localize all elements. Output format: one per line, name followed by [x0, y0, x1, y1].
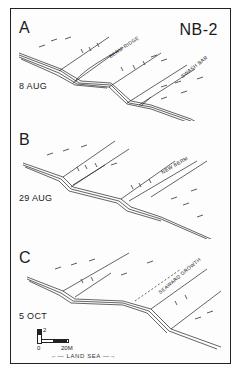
- beach-profile-sketch-b: [11, 121, 232, 239]
- panel-b: B 29 AUG NEW BERM: [11, 121, 232, 239]
- scale-origin-label: 0: [37, 345, 40, 351]
- scale-vertical-label: 2: [43, 327, 46, 333]
- land-sea-orientation: ←— LAND SEA —→: [51, 353, 116, 359]
- scale-horizontal-label: 20M: [61, 345, 73, 351]
- scale-horizontal-fill: [53, 339, 67, 343]
- figure-frame: NB-2 A 8 AUG: [10, 8, 231, 364]
- panel-a: A 8 AUG: [11, 9, 232, 121]
- scale-vertical-fill: [38, 329, 41, 335]
